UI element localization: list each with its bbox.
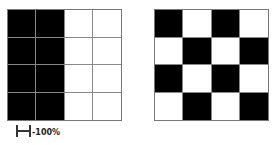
scale-label: -100% — [32, 128, 60, 137]
white-cell — [155, 38, 183, 66]
right-grid-checkerboard — [154, 9, 269, 121]
black-cell — [8, 38, 36, 66]
white-cell — [240, 10, 268, 38]
white-cell — [183, 10, 211, 38]
black-cell — [212, 10, 240, 38]
black-cell — [155, 65, 183, 93]
black-cell — [36, 93, 64, 121]
black-cell — [155, 10, 183, 38]
scale-bar-icon — [16, 125, 31, 137]
scale-indicator: -100% — [16, 125, 60, 137]
black-cell — [8, 65, 36, 93]
white-cell — [65, 65, 93, 93]
black-cell — [240, 93, 268, 121]
white-cell — [93, 38, 121, 66]
black-cell — [8, 10, 36, 38]
white-cell — [183, 65, 211, 93]
white-cell — [240, 65, 268, 93]
black-cell — [212, 65, 240, 93]
black-cell — [183, 93, 211, 121]
white-cell — [155, 93, 183, 121]
black-cell — [8, 93, 36, 121]
left-grid-half-split — [7, 9, 122, 121]
black-cell — [183, 38, 211, 66]
white-cell — [93, 65, 121, 93]
white-cell — [93, 10, 121, 38]
white-cell — [65, 10, 93, 38]
white-cell — [65, 38, 93, 66]
black-cell — [36, 65, 64, 93]
white-cell — [212, 93, 240, 121]
white-cell — [65, 93, 93, 121]
black-cell — [36, 38, 64, 66]
black-cell — [240, 38, 268, 66]
black-cell — [36, 10, 64, 38]
white-cell — [93, 93, 121, 121]
white-cell — [212, 38, 240, 66]
